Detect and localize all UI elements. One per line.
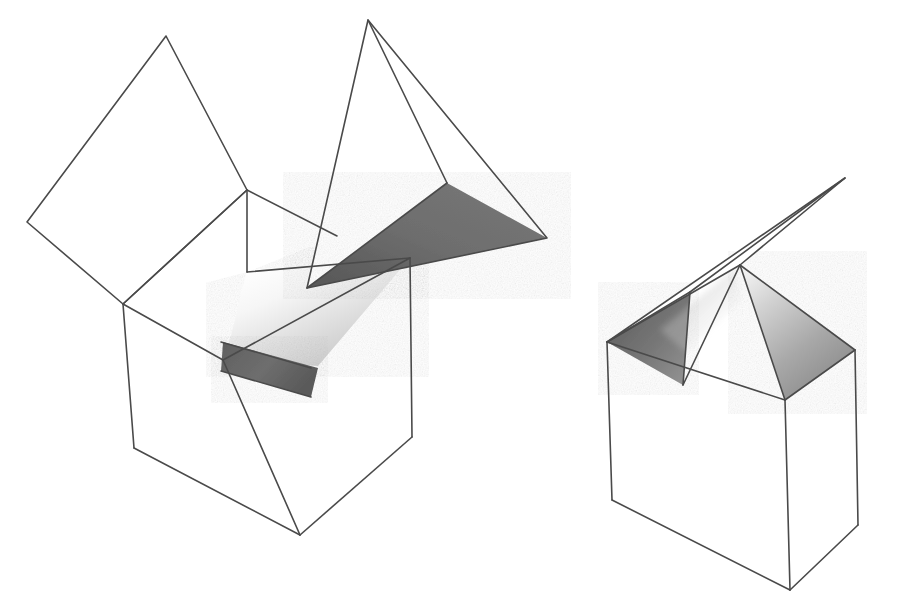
illustration-canvas: Two line-drawn open boxes with folded li… xyxy=(0,0,919,612)
right-box-thin-flap-crease xyxy=(690,178,845,292)
right-box-group[interactable] xyxy=(607,178,858,590)
boxes-line-drawing xyxy=(0,0,919,612)
left-box-group[interactable] xyxy=(27,20,547,535)
